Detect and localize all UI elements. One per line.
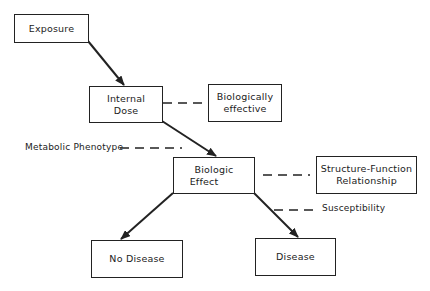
node-structure-function-line2: Relationship <box>336 175 397 187</box>
node-no-disease-label: No Disease <box>109 253 164 265</box>
node-no-disease: No Disease <box>91 240 183 278</box>
arrow-biologic-effect-to-no-disease <box>121 193 173 239</box>
arrow-internal-dose-to-biologic-effect <box>162 121 216 156</box>
arrow-biologic-effect-to-disease <box>254 193 298 237</box>
node-biologic-effect-line1: Biologic <box>195 164 234 176</box>
node-structure-function-line1: Structure-Function <box>321 163 413 175</box>
node-internal-dose: Internal Dose <box>89 86 163 123</box>
node-exposure-label: Exposure <box>29 23 75 35</box>
arrow-exposure-to-internal-dose <box>88 41 124 85</box>
node-internal-dose-line1: Internal <box>107 93 145 105</box>
label-susceptibility: Susceptibility <box>322 203 385 213</box>
node-biologic-effect: Biologic Effect <box>173 157 255 194</box>
node-biologic-effect-line2: Effect <box>190 176 219 188</box>
node-exposure: Exposure <box>14 14 89 43</box>
node-disease-label: Disease <box>276 251 315 263</box>
node-biologically-effective: Biologically effective <box>208 84 282 122</box>
node-biologically-effective-line2: effective <box>223 103 266 115</box>
node-disease: Disease <box>255 238 336 276</box>
label-metabolic-phenotype: Metabolic Phenotype <box>25 142 123 152</box>
node-structure-function: Structure-Function Relationship <box>316 156 417 194</box>
node-internal-dose-line2: Dose <box>114 105 139 117</box>
node-biologically-effective-line1: Biologically <box>217 91 273 103</box>
